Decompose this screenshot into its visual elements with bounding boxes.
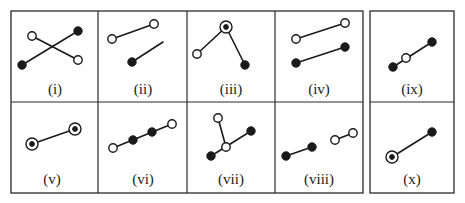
filled-node-icon <box>74 27 82 35</box>
filled-node-icon <box>428 38 436 46</box>
panel-iii: (iii) <box>193 21 249 98</box>
panel-ix: (ix) <box>389 38 436 98</box>
panel-label: (iii) <box>220 81 243 98</box>
open-node-icon <box>193 50 201 58</box>
open-node-icon <box>341 19 349 27</box>
filled-node-icon <box>129 136 137 144</box>
panel-iv: (iv) <box>292 19 349 98</box>
panel-v: (v) <box>26 123 81 188</box>
filled-node-icon <box>389 63 397 71</box>
filled-node-icon <box>308 143 316 151</box>
open-node-icon <box>292 35 300 43</box>
panel-label: (i) <box>48 81 62 98</box>
open-node-icon <box>28 32 36 40</box>
panel-label: (v) <box>43 171 61 188</box>
panel-label: (iv) <box>308 81 330 98</box>
filled-node-icon <box>241 61 249 69</box>
open-node-icon <box>214 114 222 122</box>
filled-node-icon <box>341 43 349 51</box>
open-node-icon <box>168 120 176 128</box>
filled-node-icon <box>128 58 136 66</box>
panel-i: (i) <box>18 27 82 98</box>
panel-label: (viii) <box>304 171 334 188</box>
open-node-icon <box>74 56 82 64</box>
open-node-icon <box>108 35 116 43</box>
filled-node-icon <box>148 128 156 136</box>
filled-node-icon <box>428 128 436 136</box>
panel-viii: (viii) <box>282 129 357 188</box>
panel-label: (vii) <box>218 171 244 188</box>
open-node-icon <box>331 136 339 144</box>
filled-node-icon <box>282 152 290 160</box>
figure-canvas: (i) (ii) (iii) (iv) (ix) <box>0 0 465 203</box>
panel-label: (ii) <box>134 81 152 98</box>
open-node-icon <box>222 143 230 151</box>
panel-x: (x) <box>386 128 436 188</box>
panel-label: (vi) <box>132 171 154 188</box>
filled-node-icon <box>207 152 215 160</box>
panel-ii: (ii) <box>108 20 163 98</box>
panel-vii: (vii) <box>207 114 255 188</box>
open-node-icon <box>109 144 117 152</box>
open-node-icon <box>349 129 357 137</box>
filled-node-icon <box>292 59 300 67</box>
panel-label: (ix) <box>401 81 423 98</box>
panel-label: (x) <box>403 171 421 188</box>
filled-node-icon <box>247 127 255 135</box>
panel-vi: (vi) <box>109 120 176 188</box>
open-node-icon <box>150 20 158 28</box>
filled-node-icon <box>18 61 26 69</box>
open-node-icon <box>402 54 410 62</box>
